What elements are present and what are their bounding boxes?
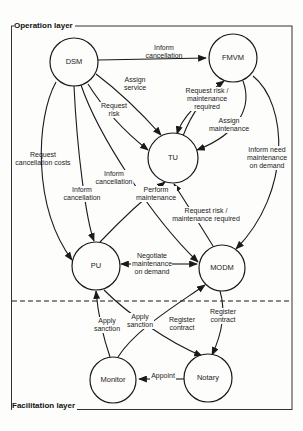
edge-request-cancellation-costs-dsm-pu (41, 82, 72, 260)
diagram-canvas (0, 0, 303, 431)
node-dsm-label: DSM (66, 58, 83, 66)
edge-label-inform-cancellation-dsm-fmvm: Inform cancellation (145, 44, 184, 60)
node-pu-label: PU (91, 262, 101, 270)
edge-label-assign-service: Assign service (123, 76, 147, 92)
layer-frame-border (12, 26, 293, 410)
node-fmvm-label: FMVM (222, 54, 244, 62)
node-modm-label: MODM (210, 264, 234, 272)
edge-label-apply-sanction-modm: Apply sanction (126, 313, 154, 329)
facilitation-layer-label: Facilitation layer (12, 401, 77, 410)
edge-label-request-cancellation-costs: Request cancellation costs (14, 151, 71, 167)
edge-label-register-contract-pu: Register contract (168, 316, 196, 332)
edge-label-appoint: Appoint (150, 372, 176, 380)
edge-label-negotiate-maintenance-on-demand: Negotiate maintenance on demand (131, 252, 173, 276)
edge-label-apply-sanction-pu: Apply sanction (93, 317, 121, 333)
edge-label-inform-need-maintenance-on-demand: Inform need maintenance on demand (246, 146, 288, 170)
edge-label-inform-cancellation-dsm-pu: Inform cancellation (63, 186, 102, 202)
operation-layer-label: Operation layer (14, 21, 75, 30)
edge-label-request-risk: Request risk (100, 102, 128, 118)
edge-label-perform-maintenance: Perform maintenance (135, 186, 177, 202)
edge-label-request-risk-maintenance-required-tu-fmvm: Request risk / maintenance required (185, 87, 230, 111)
agent-interaction-diagram: Operation layer Facilitation layer DSM F… (0, 0, 303, 431)
edge-label-register-contract-modm: Register contract (209, 308, 237, 324)
edge-label-assign-maintenance: Assign maintenance (208, 117, 250, 133)
node-notary-label: Notary (197, 374, 219, 382)
edge-label-request-risk-maintenance-required-modm-tu: Request risk / maintenance required (171, 207, 241, 223)
edge-label-inform-cancellation-dsm-modm: Inform cancellation (95, 170, 134, 186)
node-monitor-label: Monitor (100, 376, 125, 384)
node-tu-label: TU (168, 154, 178, 162)
